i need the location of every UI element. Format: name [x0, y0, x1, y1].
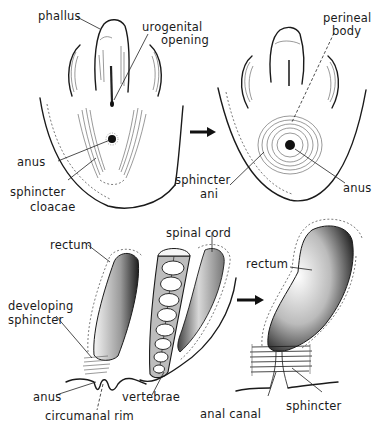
panel-section-developing: rectum spinal cord developing sphincter …: [8, 226, 236, 423]
right-fold-2: [328, 56, 338, 108]
label-anus-2: anus: [343, 181, 371, 195]
arrow-top: [190, 127, 216, 137]
label-sphincter-ani-1: sphincter: [175, 173, 231, 187]
rectum-mature: [268, 226, 353, 351]
anatomy-diagram: phallus urogenital opening anus sphincte…: [0, 0, 387, 434]
label-vertebrae: vertebrae: [122, 390, 180, 404]
phallus-shape-2: [270, 27, 304, 84]
left-fold: [69, 45, 80, 96]
label-anus-3: anus: [33, 390, 61, 404]
anus-opening-1: [108, 135, 116, 143]
label-sphincter-ani-2: ani: [200, 187, 218, 201]
anus-opening-2: [285, 140, 295, 150]
label-sphincter-cloacae-1: sphincter: [10, 185, 66, 199]
left-fold-2: [242, 56, 252, 108]
label-sphincter-cloacae-2: cloacae: [30, 200, 75, 214]
circumanal-rim-line: [66, 379, 146, 390]
label-spinal-cord: spinal cord: [166, 226, 231, 240]
label-urogenital-opening-2: opening: [161, 33, 209, 47]
label-urogenital-opening-1: urogenital: [142, 20, 202, 34]
label-anus-1: anus: [17, 155, 45, 169]
label-anal-canal: anal canal: [200, 407, 261, 421]
label-circumanal-rim: circumanal rim: [45, 409, 134, 423]
panel-section-mature: rectum anal canal sphincter: [200, 219, 362, 421]
right-fold: [150, 45, 161, 96]
label-phallus: phallus: [38, 9, 81, 23]
label-developing-sphincter-1: developing: [8, 299, 74, 313]
rectum-developing: [94, 253, 139, 360]
urogenital-slit: [111, 66, 112, 103]
label-perineal-body-1: perineal: [323, 11, 372, 25]
label-developing-sphincter-2: sphincter: [8, 313, 64, 327]
label-sphincter-mature: sphincter: [286, 399, 342, 413]
label-rectum-mature: rectum: [246, 257, 288, 271]
arrow-bottom: [237, 295, 264, 305]
label-perineal-body-2: body: [332, 24, 361, 38]
sphincter-cloacae-fibers: [78, 108, 146, 185]
label-rectum-developing: rectum: [50, 238, 92, 252]
